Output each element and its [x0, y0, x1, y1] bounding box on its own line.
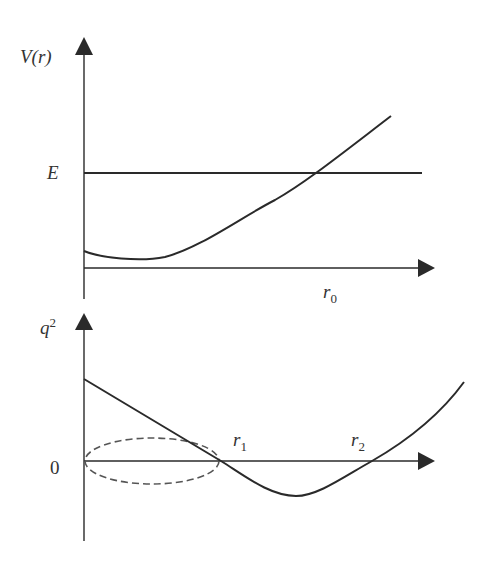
q-squared-curve [84, 379, 464, 496]
potential-curve [84, 116, 391, 259]
zero-label: 0 [50, 458, 60, 477]
upper-y-arrow-icon [75, 37, 93, 55]
r2-sub: 2 [358, 439, 365, 454]
upper-y-axis-label: V(r) [20, 47, 52, 66]
q-base: q [40, 317, 50, 338]
r0-sub: 0 [330, 291, 337, 306]
upper-panel [75, 37, 435, 299]
r1-sub: 1 [240, 439, 247, 454]
r1-label: r1 [233, 430, 247, 453]
lower-x-arrow-icon [418, 452, 435, 470]
energy-label: E [47, 163, 59, 182]
lower-panel [75, 313, 464, 541]
lower-y-axis-label: q2 [40, 316, 56, 337]
upper-x-arrow-icon [418, 259, 435, 277]
q-sup: 2 [50, 315, 57, 330]
diagram-canvas [0, 0, 499, 568]
r0-label: r0 [323, 282, 337, 305]
lower-y-arrow-icon [75, 313, 93, 330]
r2-label: r2 [351, 430, 365, 453]
